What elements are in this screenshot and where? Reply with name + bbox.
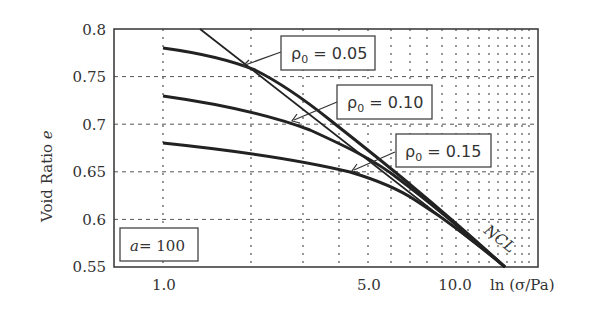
svg-text:10.0: 10.0 <box>438 276 471 294</box>
svg-text:1.0: 1.0 <box>152 276 176 294</box>
svg-text:0.8: 0.8 <box>82 21 106 39</box>
svg-text:0.7: 0.7 <box>82 116 106 134</box>
svg-text:5.0: 5.0 <box>357 276 381 294</box>
void-ratio-chart: ρ0 = 0.05 ρ0 = 0.10 ρ0 = 0.15 NCL a= 100… <box>0 0 597 313</box>
label-rho-015: ρ0 = 0.15 <box>396 134 491 167</box>
y-axis-ticks: 0.8 0.75 0.7 0.65 0.6 0.55 <box>73 21 106 276</box>
y-axis-label: Void Ratio e <box>38 130 56 223</box>
parameter-box: a= 100 <box>120 228 198 261</box>
svg-text:0.55: 0.55 <box>73 258 106 276</box>
x-axis-ticks: 1.0 5.0 10.0 <box>152 276 472 294</box>
svg-text:0.75: 0.75 <box>73 68 106 86</box>
x-axis-label: ln (σ/Pa) <box>490 276 555 294</box>
label-rho-010: ρ0 = 0.10 <box>337 85 432 119</box>
svg-text:0.6: 0.6 <box>82 211 106 229</box>
label-rho-005: ρ0 = 0.05 <box>281 36 375 70</box>
svg-text:0.65: 0.65 <box>73 163 106 181</box>
svg-text:a= 100: a= 100 <box>130 237 185 255</box>
